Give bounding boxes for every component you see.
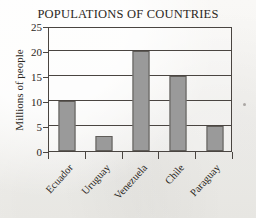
y-tick-label-20: 20 (16, 46, 42, 58)
bar-ecuador (59, 101, 76, 151)
scan-artifact-speck (243, 103, 246, 106)
x-tick-mark (158, 152, 159, 159)
chart-title: POPULATIONS OF COUNTRIES (0, 7, 256, 22)
bar-slot (123, 26, 160, 151)
bar-slot (196, 26, 233, 151)
x-tick-mark (122, 152, 123, 159)
bar-venezuela (132, 51, 149, 151)
bar-chile (169, 76, 186, 151)
y-tick-label-25: 25 (16, 21, 42, 33)
plot-area (48, 27, 232, 152)
x-tick-mark (195, 152, 196, 159)
x-tick-mark (48, 152, 49, 159)
y-tick-label-5: 5 (16, 121, 42, 133)
y-tick-label-0: 0 (16, 146, 42, 158)
y-tick-label-15: 15 (16, 71, 42, 83)
y-tick-label-10: 10 (16, 96, 42, 108)
bar-slot (86, 26, 123, 151)
bar-slot (49, 26, 86, 151)
bar-paraguay (206, 126, 223, 151)
x-tick-mark (232, 152, 233, 159)
bar-uruguay (96, 136, 113, 151)
x-tick-mark (85, 152, 86, 159)
bar-slot (159, 26, 196, 151)
bar-chart: POPULATIONS OF COUNTRIES Millions of peo… (0, 0, 256, 218)
